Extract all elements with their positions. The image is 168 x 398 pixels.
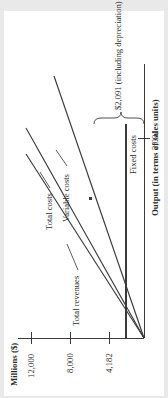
- fixed-costs-bracket-label: Fixed costs: [129, 135, 138, 174]
- y-tick-label-8000: 8,000: [66, 353, 75, 373]
- plot-svg: [4, 11, 164, 396]
- total-revenues-leader: [67, 244, 78, 270]
- curve-label-variable-costs: Variable costs: [62, 174, 71, 222]
- figure-page: Millions ($) 12,000 8,000 4,182 2,091 Ou…: [0, 0, 168, 398]
- plot-area: [4, 11, 164, 396]
- curve-label-total-costs: Total costs: [45, 193, 54, 230]
- cvp-breakeven-figure: Millions ($) 12,000 8,000 4,182 2,091 Ou…: [4, 11, 164, 396]
- fixed-costs-brace: [94, 112, 144, 124]
- breakeven-point-marker: [89, 197, 92, 200]
- fixed-costs-bracket-value: $2,091 (including depreciation): [114, 1, 123, 110]
- axis-lines: [18, 64, 144, 338]
- total-costs-leader: [40, 172, 50, 188]
- y-tick-label-12000: 12,000: [27, 354, 36, 378]
- paper-sheet: Millions ($) 12,000 8,000 4,182 2,091 Ou…: [4, 11, 164, 396]
- curve-label-total-revenues: Total revenues: [72, 276, 81, 326]
- y-tick-label-4182: 4,182: [105, 353, 114, 373]
- variable-costs-leader: [56, 150, 67, 166]
- y-axis-title: Millions ($): [10, 343, 19, 386]
- rotated-figure-wrapper: Millions ($) 12,000 8,000 4,182 2,091 Ou…: [4, 11, 164, 396]
- x-axis-title: Output (in terms of sales units): [151, 99, 160, 216]
